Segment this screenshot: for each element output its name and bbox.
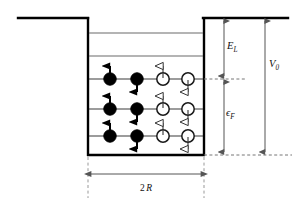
background bbox=[0, 0, 301, 202]
two-r-label: 2R bbox=[140, 183, 152, 193]
figure-canvas: EL ϵF V0 2R bbox=[0, 0, 301, 202]
potential-well-diagram: EL ϵF V0 2R bbox=[0, 0, 301, 202]
